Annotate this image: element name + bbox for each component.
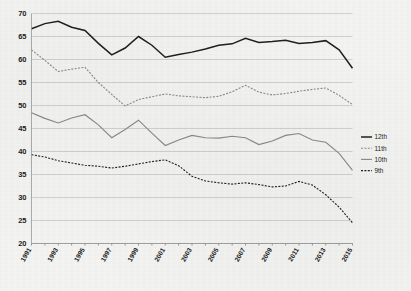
y-tick-label: 45 bbox=[18, 124, 26, 133]
y-tick-label: 30 bbox=[18, 193, 26, 202]
line-chart: 2025303540455055606570 19911993199519971… bbox=[0, 0, 411, 291]
x-tick-label: 2007 bbox=[233, 246, 247, 262]
y-axis-tick-labels: 2025303540455055606570 bbox=[18, 9, 26, 248]
x-tick-label: 1995 bbox=[72, 246, 86, 262]
chart-page: 2025303540455055606570 19911993199519971… bbox=[0, 0, 411, 291]
x-tick-label: 2009 bbox=[260, 246, 274, 262]
series-line-12th bbox=[32, 21, 353, 68]
series-line-10th bbox=[32, 113, 353, 171]
y-tick-label: 50 bbox=[18, 101, 26, 110]
legend-label-12th: 12th bbox=[375, 133, 388, 140]
x-tick-label: 2005 bbox=[206, 246, 220, 262]
y-tick-label: 55 bbox=[18, 78, 26, 87]
legend-label-9th: 9th bbox=[375, 167, 384, 174]
y-tick-label: 70 bbox=[18, 9, 26, 18]
legend-label-11th: 11th bbox=[375, 145, 387, 152]
x-tick-label: 2001 bbox=[153, 246, 167, 262]
data-series-group bbox=[32, 21, 353, 222]
series-line-11th bbox=[32, 50, 353, 106]
x-tick-label: 1999 bbox=[126, 246, 140, 262]
y-tick-label: 25 bbox=[18, 216, 26, 225]
x-axis-tick-labels: 1991199319951997199920012003200520072009… bbox=[19, 246, 354, 262]
y-tick-label: 60 bbox=[18, 55, 26, 64]
x-tick-label: 2011 bbox=[287, 246, 300, 262]
x-tick-label: 2015 bbox=[340, 246, 354, 262]
legend-label-10th: 10th bbox=[375, 156, 388, 163]
y-tick-label: 35 bbox=[18, 170, 26, 179]
x-tick-label: 1993 bbox=[46, 246, 60, 262]
chart-legend: 12th11th10th9th bbox=[361, 133, 387, 174]
x-tick-label: 1997 bbox=[99, 246, 113, 262]
gridlines bbox=[32, 14, 353, 244]
y-tick-label: 40 bbox=[18, 147, 26, 156]
x-tick-label: 1991 bbox=[19, 246, 33, 262]
series-line-9th bbox=[32, 155, 353, 223]
y-tick-label: 65 bbox=[18, 32, 26, 41]
x-tick-label: 2013 bbox=[313, 246, 327, 262]
x-tick-label: 2003 bbox=[179, 246, 193, 262]
